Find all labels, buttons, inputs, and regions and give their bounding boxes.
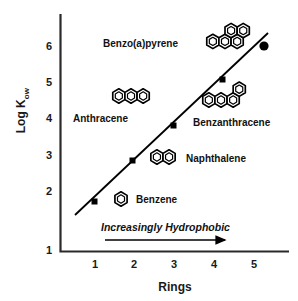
y-axis-title-base: Log K xyxy=(14,99,28,133)
data-point-naphthalene xyxy=(130,158,136,164)
x-tick-4: 4 xyxy=(207,259,221,270)
naphthalene-structure-icon xyxy=(151,150,175,164)
benzo-a-pyrene-structure-icon xyxy=(207,23,250,48)
y-axis-title: Log Kow xyxy=(15,71,32,151)
hydrophobic-note: Increasingly Hydrophobic xyxy=(101,222,230,233)
y-tick-1: 1 xyxy=(38,245,52,256)
data-point-benzo-a-pyrene xyxy=(259,41,268,50)
data-point-benzene xyxy=(92,199,98,205)
benzanthracene-structure-icon xyxy=(203,82,246,107)
label-benzene: Benzene xyxy=(136,195,177,205)
y-tick-5: 5 xyxy=(38,77,52,88)
y-tick-3: 3 xyxy=(38,150,52,161)
data-point-benzanthracene xyxy=(220,77,226,83)
x-tick-5: 5 xyxy=(247,259,261,270)
data-point-anthracene xyxy=(171,123,177,129)
y-tick-4: 4 xyxy=(38,113,52,124)
y-tick-6: 6 xyxy=(38,41,52,52)
x-tick-1: 1 xyxy=(88,259,102,270)
y-tick-2: 2 xyxy=(38,186,52,197)
label-naphthalene: Naphthalene xyxy=(186,154,246,164)
benzene-structure-icon xyxy=(115,192,127,206)
x-tick-3: 3 xyxy=(167,259,181,270)
chart-figure: 6 5 4 3 2 1 1 2 3 4 5 Log Kow Rings Benz… xyxy=(0,0,298,301)
y-axis-title-subscript: ow xyxy=(22,88,31,99)
axis-lines xyxy=(61,14,290,252)
label-anthracene: Anthracene xyxy=(73,114,128,124)
label-benzanthracene: Benzanthracene xyxy=(193,118,270,128)
x-tick-2: 2 xyxy=(127,259,141,270)
x-axis-title: Rings xyxy=(60,281,290,293)
label-benzo-a-pyrene: Benzo(a)pyrene xyxy=(103,39,178,49)
anthracene-structure-icon xyxy=(113,89,149,103)
